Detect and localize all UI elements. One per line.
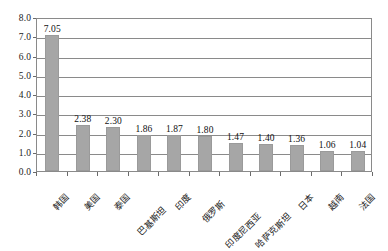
bar-value-label: 1.47 bbox=[227, 132, 244, 142]
y-axis-tick-label: 8.0 bbox=[19, 13, 31, 23]
bar-group[interactable]: 2.30 bbox=[106, 19, 120, 171]
bar-value-label: 1.80 bbox=[196, 125, 213, 135]
x-axis-tick-mark bbox=[311, 172, 312, 176]
x-axis-tick-label-text: 韩国 bbox=[50, 191, 72, 213]
bar[interactable] bbox=[198, 136, 212, 171]
x-axis-tick-mark bbox=[189, 172, 190, 176]
x-axis-tick-label-text: 俄罗斯 bbox=[199, 197, 227, 225]
x-axis: 韩国美国泰国巴基斯坦印度俄罗斯印度尼西亚哈萨克斯坦日本越南法国 bbox=[36, 172, 372, 227]
bar[interactable] bbox=[290, 145, 304, 171]
y-axis: 0.01.02.03.04.05.06.07.08.0 bbox=[0, 18, 36, 172]
bar[interactable] bbox=[137, 135, 151, 171]
bar[interactable] bbox=[259, 144, 273, 171]
bar-value-label: 1.40 bbox=[258, 133, 275, 143]
plot-area: 7.052.382.301.861.871.801.471.401.361.06… bbox=[36, 18, 372, 172]
x-axis-tick-mark bbox=[67, 172, 68, 176]
bar[interactable] bbox=[351, 151, 365, 171]
y-axis-tick-label: 0.0 bbox=[19, 167, 31, 177]
bar[interactable] bbox=[106, 127, 120, 171]
bar-value-label: 1.04 bbox=[349, 140, 366, 150]
bar-group[interactable]: 1.36 bbox=[290, 19, 304, 171]
bar-value-label: 1.36 bbox=[288, 134, 305, 144]
bar-group[interactable]: 1.40 bbox=[259, 19, 273, 171]
bar-value-label: 1.86 bbox=[135, 124, 152, 134]
bar-value-label: 1.87 bbox=[166, 124, 183, 134]
bar-group[interactable]: 2.38 bbox=[76, 19, 90, 171]
x-axis-tick-mark bbox=[158, 172, 159, 176]
x-axis-tick-label: 法国 bbox=[368, 178, 388, 200]
bar[interactable] bbox=[320, 151, 334, 171]
x-axis-tick-mark bbox=[97, 172, 98, 176]
x-axis-tick-label-text: 美国 bbox=[80, 191, 102, 213]
bar-group[interactable]: 1.86 bbox=[137, 19, 151, 171]
x-axis-tick-mark bbox=[372, 172, 373, 176]
bar-value-label: 2.38 bbox=[74, 114, 91, 124]
x-axis-tick-mark bbox=[250, 172, 251, 176]
y-axis-tick-label: 1.0 bbox=[19, 148, 31, 158]
bar-value-label: 7.05 bbox=[44, 24, 61, 34]
x-axis-tick-label-text: 巴基斯坦 bbox=[134, 203, 169, 238]
y-axis-tick-label: 5.0 bbox=[19, 71, 31, 81]
y-axis-tick-label: 3.0 bbox=[19, 109, 31, 119]
bar-value-label: 2.30 bbox=[105, 116, 122, 126]
x-axis-tick-label: 日本 bbox=[307, 178, 329, 200]
x-axis-tick-mark bbox=[280, 172, 281, 176]
x-axis-tick-label: 韩国 bbox=[63, 178, 85, 200]
x-axis-tick-label: 美国 bbox=[93, 178, 115, 200]
x-axis-tick-label-text: 法国 bbox=[355, 191, 377, 213]
bar-group[interactable]: 1.87 bbox=[167, 19, 181, 171]
bar[interactable] bbox=[76, 125, 90, 171]
bar[interactable] bbox=[167, 135, 181, 171]
bar-group[interactable]: 1.06 bbox=[320, 19, 334, 171]
x-axis-tick-label-text: 泰国 bbox=[111, 191, 133, 213]
bar-group[interactable]: 1.04 bbox=[351, 19, 365, 171]
y-axis-tick-label: 4.0 bbox=[19, 90, 31, 100]
x-axis-tick-label: 越南 bbox=[337, 178, 359, 200]
bar-group[interactable]: 1.47 bbox=[229, 19, 243, 171]
x-axis-tick-label-text: 越南 bbox=[325, 191, 347, 213]
bar-group[interactable]: 1.80 bbox=[198, 19, 212, 171]
bar[interactable] bbox=[229, 143, 243, 171]
x-axis-tick-mark bbox=[128, 172, 129, 176]
y-axis-tick-label: 7.0 bbox=[19, 32, 31, 42]
x-axis-tick-label: 俄罗斯 bbox=[218, 178, 246, 206]
bar[interactable] bbox=[45, 35, 59, 171]
x-axis-tick-mark bbox=[36, 172, 37, 176]
x-axis-tick-mark bbox=[219, 172, 220, 176]
x-axis-tick-mark bbox=[341, 172, 342, 176]
bar-group[interactable]: 7.05 bbox=[45, 19, 59, 171]
y-axis-tick-label: 2.0 bbox=[19, 129, 31, 139]
bar-value-label: 1.06 bbox=[319, 140, 336, 150]
x-axis-tick-label: 泰国 bbox=[124, 178, 146, 200]
y-axis-tick-label: 6.0 bbox=[19, 52, 31, 62]
